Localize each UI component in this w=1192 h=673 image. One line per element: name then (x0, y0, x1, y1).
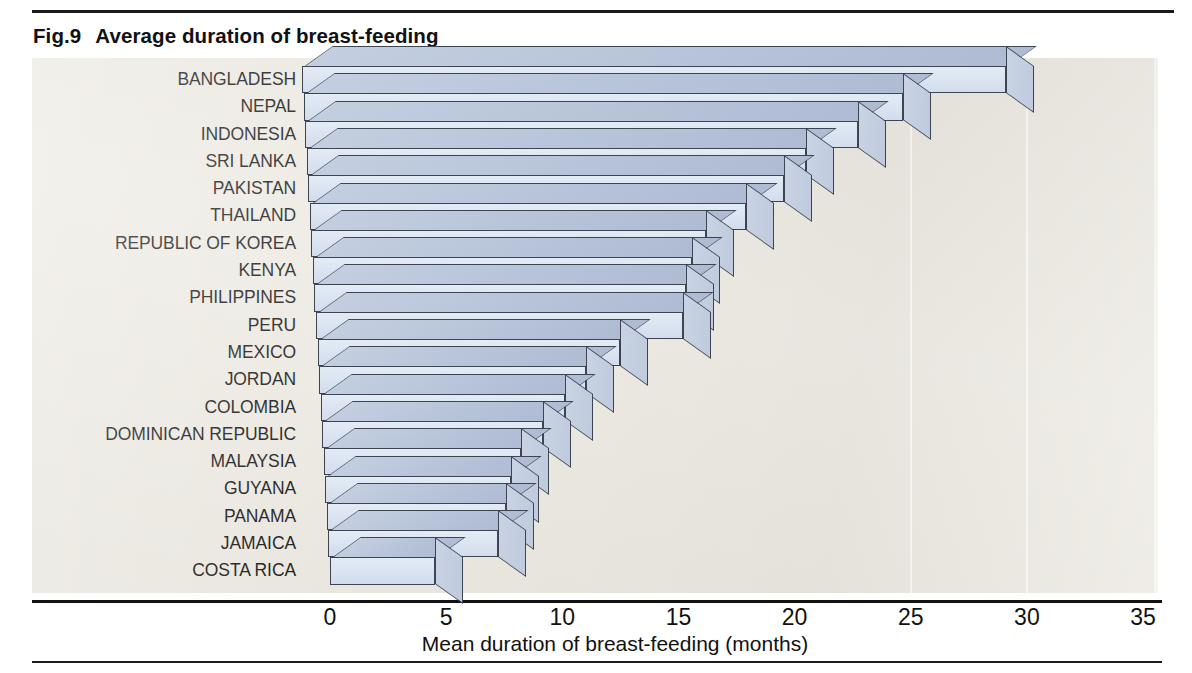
bar-top-face (324, 428, 552, 450)
category-label: MEXICO (32, 339, 300, 366)
category-label: PHILIPPINES (32, 284, 300, 311)
bottom-rule (32, 661, 1162, 663)
x-tick-label: 10 (550, 604, 576, 631)
bar-top-face (307, 128, 837, 150)
category-label: COSTA RICA (32, 557, 300, 584)
category-label: MALAYSIA (32, 448, 300, 475)
category-label: BANGLADESH (32, 66, 300, 93)
category-label: PERU (32, 312, 300, 339)
x-tick-label: 0 (324, 604, 337, 631)
category-label: COLOMBIA (32, 394, 300, 421)
bar-top-face (318, 319, 651, 341)
bar-top-face (302, 46, 1037, 68)
bar-top-face (321, 374, 596, 396)
category-label: JAMAICA (32, 530, 300, 557)
bar-top-face (325, 456, 542, 478)
bar-top-face (305, 101, 889, 123)
x-tick-label: 30 (1014, 604, 1040, 631)
x-tick-label: 5 (440, 604, 453, 631)
x-axis-line (32, 600, 1162, 603)
top-rule (32, 10, 1174, 13)
category-label: THAILAND (32, 202, 300, 229)
x-tick-label: 15 (666, 604, 692, 631)
category-label: DOMINICAN REPUBLIC (32, 421, 300, 448)
category-axis-labels: BANGLADESHNEPALINDONESIASRI LANKAPAKISTA… (32, 66, 300, 585)
bar-top-face (313, 237, 722, 259)
bar-top-face (311, 210, 737, 232)
x-tick-label: 25 (898, 604, 924, 631)
category-label: KENYA (32, 257, 300, 284)
bar-front-face (330, 557, 435, 584)
category-label: PANAMA (32, 503, 300, 530)
category-label: GUYANA (32, 475, 300, 502)
x-axis-title: Mean duration of breast-feeding (months) (0, 632, 1192, 656)
bar-end-face (1006, 46, 1034, 113)
category-label: PAKISTAN (32, 175, 300, 202)
x-axis-title-text: Mean duration of breast-feeding (months) (422, 632, 808, 656)
bar-top-face (304, 73, 934, 95)
category-label: REPUBLIC OF KOREA (32, 230, 300, 257)
category-label: SRI LANKA (32, 148, 300, 175)
category-label: INDONESIA (32, 121, 300, 148)
bar-top-face (319, 346, 617, 368)
category-label: JORDAN (32, 366, 300, 393)
x-tick-label: 20 (782, 604, 808, 631)
figure-number: Fig.9 (33, 24, 81, 47)
bar-top-face (308, 155, 815, 177)
bar-series-group (302, 58, 1158, 593)
page-title: Fig.9Average duration of breast-feeding (33, 24, 439, 48)
bar-top-face (322, 401, 573, 423)
chart-plot-area: BANGLADESHNEPALINDONESIASRI LANKAPAKISTA… (32, 58, 1158, 593)
figure-title-text: Average duration of breast-feeding (95, 24, 438, 47)
bar-top-face (316, 292, 714, 314)
x-tick-label: 35 (1130, 604, 1156, 631)
bar-top-face (314, 264, 716, 286)
category-label: NEPAL (32, 93, 300, 120)
bar-row (330, 557, 463, 584)
bar-top-face (310, 183, 778, 205)
